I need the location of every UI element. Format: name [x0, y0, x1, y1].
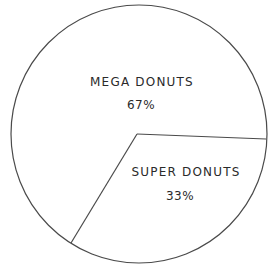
pie-chart-graphic [0, 0, 280, 274]
slice-label-super-donuts: SUPER DONUTS [131, 165, 240, 179]
slice-label-mega-donuts: MEGA DONUTS [90, 75, 194, 89]
slice-percent-super-donuts: 33% [166, 189, 194, 203]
pie-chart: MEGA DONUTS 67% SUPER DONUTS 33% [0, 0, 280, 274]
slice-percent-mega-donuts: 67% [127, 98, 155, 112]
